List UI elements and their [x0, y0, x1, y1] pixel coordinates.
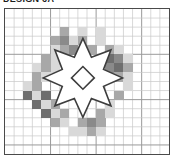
chart-caption-text: DESIGN 6A	[3, 0, 113, 4]
pattern-chart-page: DESIGN 6A	[0, 0, 178, 160]
chart-frame	[4, 8, 170, 155]
star-motif-overlay	[5, 9, 169, 154]
chart-caption-clipped: DESIGN 6A	[3, 0, 113, 4]
